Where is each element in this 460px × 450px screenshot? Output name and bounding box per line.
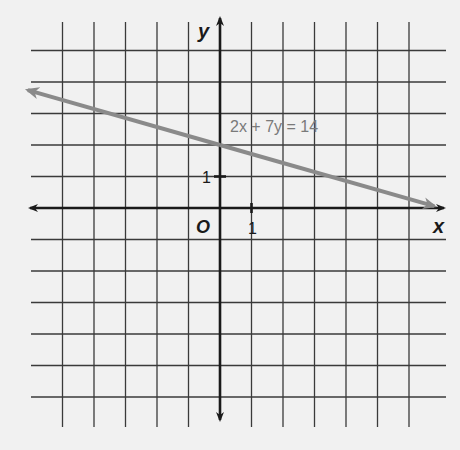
line-segment-left — [28, 90, 220, 145]
coordinate-graph: y x O 1 1 2x + 7y = 14 — [0, 0, 460, 450]
y-tick-label: 1 — [202, 169, 211, 186]
origin-label: O — [196, 217, 210, 237]
y-axis-label: y — [197, 20, 210, 42]
x-tick-label: 1 — [248, 220, 257, 237]
x-axis-label: x — [432, 215, 445, 237]
axes — [30, 18, 444, 420]
grid-lines — [31, 22, 446, 427]
graphed-line — [28, 90, 434, 206]
equation-label: 2x + 7y = 14 — [230, 118, 318, 135]
